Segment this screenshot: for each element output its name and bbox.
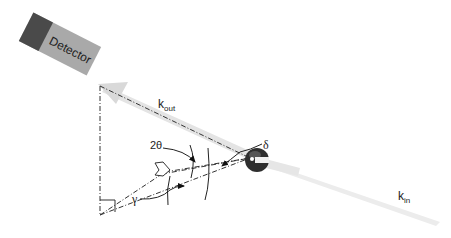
incoming-beam [250,155,440,226]
angle-arcs [167,145,209,205]
two-theta-label: 2θ [150,139,162,151]
scattering-diagram: Detector kout [0,0,451,238]
two-theta-leader [163,148,195,162]
angle-vertex-marker [155,162,170,176]
kin-label: kin [398,189,410,205]
kout-label: kout [158,97,176,113]
dashed-ray-to-sample [165,158,250,172]
two-theta-arc-1 [190,145,193,178]
gamma-label: γ [131,192,138,206]
detector: Detector [19,12,101,75]
delta-label: δ [263,138,269,152]
gamma-leader [140,186,184,199]
labels: kout kin 2θ γ δ [131,97,410,206]
